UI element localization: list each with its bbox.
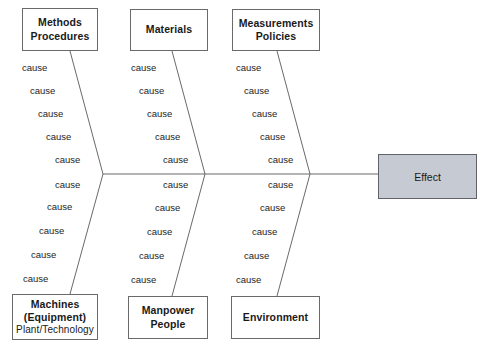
cause-label: cause [131,275,156,285]
cause-label: cause [260,203,285,213]
cause-label: cause [139,251,164,261]
category-box-environment[interactable]: Environment [231,296,320,339]
category-label-line: Methods [38,16,82,29]
category-box-measurements-policies[interactable]: Measurements Policies [232,9,320,51]
cause-label: cause [46,132,71,142]
category-label-line: People [150,318,185,331]
category-label-line: Procedures [31,30,90,43]
cause-label: cause [147,109,172,119]
category-label-line: Policies [256,30,297,43]
cause-label: cause [236,275,261,285]
category-label-line: Plant/Technology [16,324,94,337]
cause-label: cause [147,227,172,237]
cause-label: cause [31,250,56,260]
cause-label: cause [252,109,277,119]
fishbone-diagram: Methods Procedures cause cause cause cau… [0,0,485,353]
cause-label: cause [139,86,164,96]
cause-label: cause [131,63,156,73]
cause-label: cause [260,132,285,142]
cause-label: cause [155,203,180,213]
cause-label: cause [22,63,47,73]
cause-label: cause [55,180,80,190]
cause-label: cause [47,202,72,212]
category-box-methods-procedures[interactable]: Methods Procedures [22,8,98,51]
cause-label: cause [268,155,293,165]
cause-label: cause [244,251,269,261]
category-label-line: (Equipment) [24,311,86,324]
category-label-line: Materials [146,23,192,36]
cause-label: cause [236,63,261,73]
bone-machines-equipment [70,174,103,294]
cause-label: cause [155,132,180,142]
category-box-materials[interactable]: Materials [130,9,208,51]
cause-label: cause [163,180,188,190]
cause-label: cause [55,155,80,165]
category-box-manpower-people[interactable]: Manpower People [128,296,208,339]
cause-label: cause [163,155,188,165]
cause-label: cause [268,180,293,190]
cause-label: cause [252,227,277,237]
cause-label: cause [30,86,55,96]
category-label-line: Manpower [142,304,195,317]
bone-environment [277,174,310,296]
bone-manpower-people [172,174,205,296]
category-box-machines-equipment[interactable]: Machines (Equipment) Plant/Technology [12,294,98,340]
cause-label: cause [244,86,269,96]
cause-label: cause [39,226,64,236]
category-label-line: Measurements [239,17,314,30]
effect-label: Effect [414,171,441,183]
category-label-line: Environment [243,311,308,324]
effect-box[interactable]: Effect [378,154,477,199]
category-label-line: Machines [31,298,80,311]
cause-label: cause [38,109,63,119]
cause-label: cause [23,274,48,284]
